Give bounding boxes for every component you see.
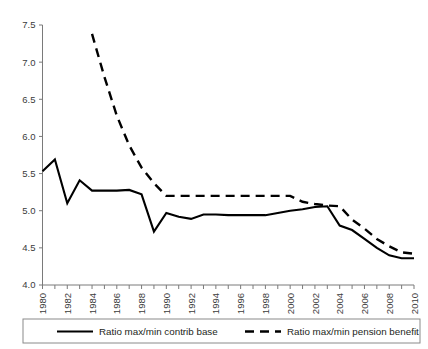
series-lines [43, 34, 415, 258]
chart-figure: 4.04.55.05.56.06.57.07.5 198019821984198… [0, 0, 428, 349]
x-tick-label: 1996 [235, 293, 246, 314]
legend-item-label: Ratio max/min pension benefit [287, 326, 419, 337]
x-tick-label: 1992 [186, 293, 197, 314]
legend-item-label: Ratio max/min contrib base [99, 326, 218, 337]
x-tick-label: 2004 [334, 293, 345, 314]
series-line-2 [92, 34, 414, 254]
x-tick-label: 1988 [136, 293, 147, 314]
chart-legend: Ratio max/min contrib baseRatio max/min … [23, 319, 420, 343]
x-tick-label: 2008 [384, 293, 395, 314]
x-tick-label: 1990 [161, 293, 172, 314]
y-tick-label: 5.0 [22, 205, 35, 216]
x-tick-label: 1998 [260, 293, 271, 314]
x-tick-label: 1982 [62, 293, 73, 314]
y-tick-label: 4.0 [22, 279, 35, 290]
x-tick-label: 2010 [409, 293, 420, 314]
x-axis: 1980198219841986198819901992199419961998… [37, 285, 420, 314]
y-tick-label: 6.0 [22, 131, 35, 142]
y-tick-label: 7.5 [22, 19, 35, 30]
y-tick-label: 4.5 [22, 242, 35, 253]
y-tick-label: 5.5 [22, 168, 35, 179]
x-tick-label: 1980 [37, 293, 48, 314]
y-axis: 4.04.55.05.56.06.57.07.5 [22, 19, 42, 290]
y-tick-label: 7.0 [22, 57, 35, 68]
x-tick-label: 1986 [111, 293, 122, 314]
x-tick-label: 1994 [210, 293, 221, 314]
y-tick-label: 6.5 [22, 94, 35, 105]
x-tick-label: 2000 [285, 293, 296, 314]
x-tick-label: 1984 [87, 293, 98, 314]
x-tick-label: 2002 [310, 293, 321, 314]
line-chart: 4.04.55.05.56.06.57.07.5 198019821984198… [0, 0, 428, 349]
x-tick-label: 2006 [359, 293, 370, 314]
series-line-1 [43, 159, 415, 258]
